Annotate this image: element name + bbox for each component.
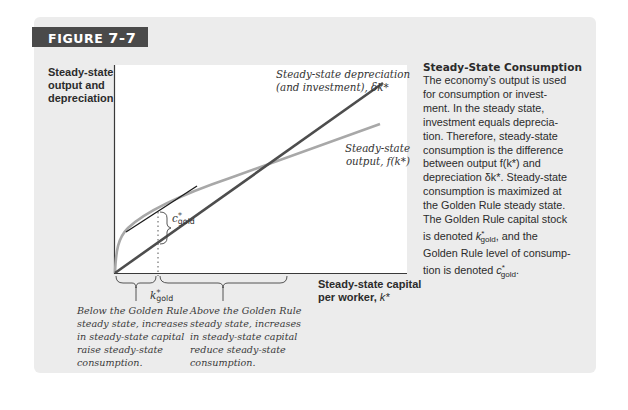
x-axis-label: Steady-state capital per worker, k*	[318, 278, 421, 304]
x-axis-variable: k*	[380, 291, 390, 303]
note-line: consumption.	[77, 356, 192, 369]
note-line: in steady-state capital	[77, 330, 192, 343]
note-line: reduce steady-state	[190, 343, 305, 356]
above-golden-note: Above the Golden Rule steady state, incr…	[190, 304, 305, 369]
output-label-line: Steady-state	[340, 142, 410, 155]
caption-line: tion. Therefore, steady-state	[423, 130, 593, 144]
note-line: in steady-state capital	[190, 330, 305, 343]
note-line: Above the Golden Rule	[190, 304, 305, 317]
x-axis-label-line: per worker,	[318, 291, 380, 303]
above-golden-brace	[160, 276, 287, 288]
c-gold-label: c*gold	[172, 210, 195, 229]
caption-line: The Golden Rule capital stock	[423, 213, 593, 227]
note-line: steady state, increases	[77, 317, 192, 330]
depreciation-label: Steady-state depreciation (and investmen…	[276, 68, 416, 93]
caption-line: ment. In the steady state,	[423, 102, 593, 116]
below-golden-note: Below the Golden Rule steady state, incr…	[77, 304, 192, 369]
caption-line: depreciation δk*. Steady-state	[423, 171, 593, 185]
caption-line: the Golden Rule steady state.	[423, 199, 593, 213]
caption-line: for consumption or invest-	[423, 88, 593, 102]
caption-line: The economy’s output is used	[423, 74, 593, 88]
note-line: raise steady-state	[77, 343, 192, 356]
caption-title: Steady-State Consumption	[423, 60, 593, 74]
caption-line: consumption is maximized at	[423, 185, 593, 199]
figure-caption: Steady-State Consumption The economy’s o…	[423, 60, 593, 282]
caption-line: consumption is the difference	[423, 144, 593, 158]
output-label-line: output, f(k*)	[340, 155, 410, 168]
caption-line: between output f(k*) and	[423, 157, 593, 171]
caption-line: is denoted k*gold, and the	[423, 227, 593, 247]
x-axis-label-line: Steady-state capital	[318, 278, 421, 291]
caption-line: Golden Rule level of consump-	[423, 247, 593, 261]
output-label: Steady-state output, f(k*)	[340, 142, 410, 167]
note-line: consumption.	[190, 356, 305, 369]
note-line: Below the Golden Rule	[77, 304, 192, 317]
caption-line: tion is denoted c*gold.	[423, 261, 593, 281]
depreciation-label-line: Steady-state depreciation	[276, 68, 416, 81]
depreciation-line	[115, 83, 383, 273]
k-gold-label: k*gold	[150, 287, 173, 306]
note-line: steady state, increases	[190, 317, 305, 330]
caption-line: investment equals deprecia-	[423, 116, 593, 130]
depreciation-label-line: (and investment), δk*	[276, 81, 416, 94]
